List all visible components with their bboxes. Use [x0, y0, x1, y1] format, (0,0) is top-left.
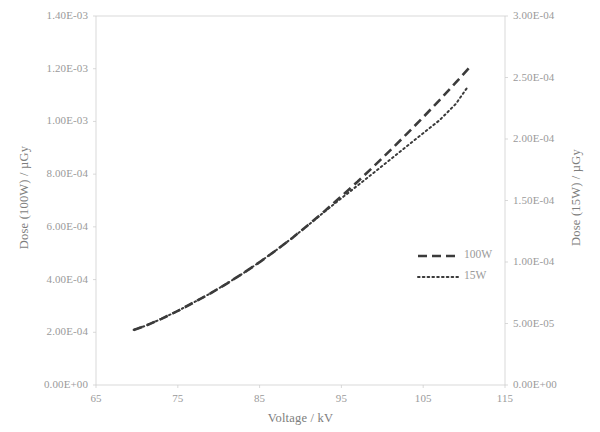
legend-item-15w: 15W	[464, 269, 486, 281]
plot-frame	[93, 16, 508, 388]
legend-item-100w: 100W	[464, 248, 492, 260]
plot-series-group	[134, 65, 472, 330]
chart-figure: Dose (100W) / µGy Dose (15W) / µGy Volta…	[0, 0, 600, 432]
series-line-100w	[134, 65, 472, 330]
legend-marks	[418, 256, 458, 277]
plot-area	[0, 0, 600, 432]
